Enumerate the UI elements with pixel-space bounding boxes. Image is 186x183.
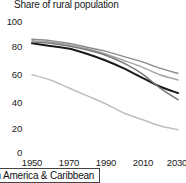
- line-series-1: [32, 39, 178, 73]
- line-series-5: [32, 75, 178, 130]
- legend-item-label: tin America & Caribbean: [0, 170, 94, 181]
- legend: tin America & Caribbean: [0, 168, 100, 183]
- rural-population-line-chart: Share of rural population 100 80 60 40 2…: [0, 0, 186, 183]
- plot-area: [0, 0, 186, 183]
